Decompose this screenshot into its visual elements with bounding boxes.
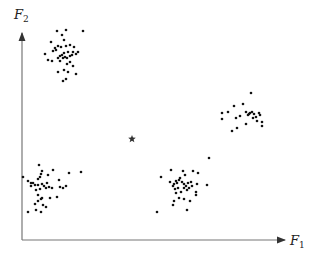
data-point: [48, 186, 51, 189]
data-point: [221, 112, 224, 115]
data-point: [41, 170, 44, 173]
data-point: [255, 116, 258, 119]
data-point: [156, 211, 159, 214]
data-point: [189, 200, 192, 203]
data-point: [236, 127, 239, 130]
cluster-top-left: [44, 29, 85, 83]
data-point: [49, 197, 52, 200]
data-point: [169, 181, 172, 184]
data-point: [258, 112, 261, 115]
data-point: [66, 63, 69, 66]
data-point: [65, 185, 68, 188]
data-point: [57, 57, 60, 60]
data-point: [245, 123, 248, 126]
data-point: [62, 187, 65, 190]
data-point: [250, 92, 253, 95]
data-point: [27, 211, 30, 214]
data-point: [40, 211, 43, 214]
data-point: [239, 115, 242, 118]
cluster-right: [221, 92, 264, 133]
data-point: [184, 174, 187, 177]
data-point: [185, 185, 188, 188]
data-point: [41, 197, 44, 200]
data-point: [75, 73, 78, 76]
data-point: [40, 173, 43, 176]
data-point: [227, 111, 230, 114]
data-point: [206, 184, 209, 187]
data-point: [231, 130, 234, 133]
data-point: [175, 192, 178, 195]
data-point: [190, 181, 193, 184]
data-point: [37, 178, 40, 181]
data-point: [43, 185, 46, 188]
data-point: [187, 182, 190, 185]
data-point: [253, 113, 256, 116]
data-point: [52, 50, 55, 53]
cluster-bottom-center: [156, 157, 211, 214]
data-point: [37, 200, 40, 203]
data-point: [59, 186, 62, 189]
x-axis-label: F1: [290, 234, 305, 250]
data-point: [77, 51, 80, 54]
data-point: [65, 45, 68, 48]
data-point: [172, 185, 175, 188]
data-point: [256, 120, 259, 123]
data-point: [176, 182, 179, 185]
data-point: [233, 105, 236, 108]
data-point: [69, 44, 72, 47]
data-point: [32, 182, 35, 185]
data-point: [181, 181, 184, 184]
data-point: [51, 60, 54, 63]
data-point: [39, 176, 42, 179]
data-point: [45, 187, 48, 190]
data-point: [59, 55, 62, 58]
data-point: [63, 69, 66, 72]
centroid-star-icon: [128, 135, 136, 142]
data-point: [252, 117, 255, 120]
data-point: [63, 39, 66, 42]
data-point: [197, 172, 200, 175]
data-point: [46, 182, 49, 185]
data-point: [62, 80, 65, 83]
data-point: [195, 194, 198, 197]
data-point: [80, 171, 83, 174]
data-point: [73, 46, 76, 49]
data-point: [183, 183, 186, 186]
data-point: [55, 49, 58, 52]
data-point: [248, 113, 251, 116]
data-point: [66, 57, 69, 60]
data-point: [192, 170, 195, 173]
data-point: [27, 180, 30, 183]
data-point: [67, 71, 70, 74]
data-point: [251, 111, 254, 114]
data-point: [45, 206, 48, 209]
data-point: [63, 52, 66, 55]
data-point: [61, 34, 64, 37]
data-point: [65, 78, 68, 81]
data-point: [39, 188, 42, 191]
data-point: [42, 204, 45, 207]
data-point: [56, 196, 59, 199]
data-point: [35, 209, 38, 212]
data-point: [261, 125, 264, 128]
data-point: [57, 45, 60, 48]
data-point: [186, 189, 189, 192]
data-point: [35, 189, 38, 192]
y-axis-label-subscript: 2: [23, 14, 29, 24]
data-point: [82, 30, 85, 33]
data-point: [72, 51, 75, 54]
x-axis-label-subscript: 1: [299, 240, 305, 250]
data-point: [242, 103, 245, 106]
data-point: [178, 179, 181, 182]
data-point: [221, 118, 224, 121]
data-point: [245, 111, 248, 114]
data-point: [182, 170, 185, 173]
data-point: [177, 187, 180, 190]
data-point: [75, 53, 78, 56]
data-point: [47, 174, 50, 177]
data-point: [208, 157, 211, 160]
data-point: [22, 176, 25, 179]
data-point: [37, 194, 40, 197]
data-point: [172, 204, 175, 207]
data-point: [183, 198, 186, 201]
